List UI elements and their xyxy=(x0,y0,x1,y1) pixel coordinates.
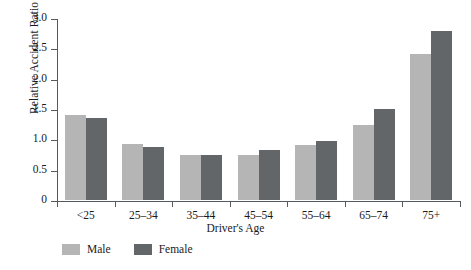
bar-female-2 xyxy=(201,155,222,201)
x-axis-tick-label: 75+ xyxy=(422,209,440,221)
relative-accident-ratio-bar-chart: Relative Accident Ratio 00.51.01.52.02.5… xyxy=(0,0,471,270)
x-axis-tick xyxy=(57,201,58,207)
y-axis-tick-label: 0 xyxy=(41,193,47,205)
bar-female-3 xyxy=(259,150,280,200)
legend-swatch-female xyxy=(134,244,152,255)
x-axis-tick xyxy=(460,201,461,207)
x-axis-tick xyxy=(402,201,403,207)
bar-female-0 xyxy=(86,118,107,201)
x-axis-tick xyxy=(172,201,173,207)
x-axis-line xyxy=(57,201,460,202)
bar-female-4 xyxy=(316,141,337,200)
x-axis-tick xyxy=(287,201,288,207)
legend-label-male: Male xyxy=(87,243,111,255)
plot-area: 00.51.01.52.02.53.0 <2525–3435–4445–5455… xyxy=(57,19,460,201)
x-axis-tick xyxy=(115,201,116,207)
y-axis-tick: 2.0 xyxy=(51,80,57,81)
x-axis-title: Driver's Age xyxy=(0,222,471,234)
legend-swatch-male xyxy=(62,244,80,255)
legend-item-female[interactable]: Female xyxy=(134,243,193,255)
legend-label-female: Female xyxy=(159,243,193,255)
x-axis-tick-label: <25 xyxy=(77,209,95,221)
y-axis-tick-label: 0.5 xyxy=(33,163,47,175)
y-axis-tick: 2.5 xyxy=(51,49,57,50)
y-axis-tick-label: 3.0 xyxy=(33,11,47,23)
bar-female-1 xyxy=(143,147,164,200)
y-axis-tick: 1.5 xyxy=(51,110,57,111)
y-axis-tick: 0.5 xyxy=(51,171,57,172)
bar-female-5 xyxy=(374,109,395,200)
chart-legend: MaleFemale xyxy=(62,243,207,255)
bar-male-5 xyxy=(353,125,374,200)
y-axis-tick-label: 1.5 xyxy=(33,102,47,114)
x-axis-tick-label: 25–34 xyxy=(129,209,158,221)
bar-male-0 xyxy=(65,115,86,200)
y-axis-tick-label: 1.0 xyxy=(33,132,47,144)
bar-male-1 xyxy=(122,144,143,200)
y-axis-tick-label: 2.0 xyxy=(33,72,47,84)
legend-item-male[interactable]: Male xyxy=(62,243,111,255)
bar-female-6 xyxy=(431,31,452,200)
y-axis-tick-label: 2.5 xyxy=(33,41,47,53)
x-axis-tick-label: 35–44 xyxy=(187,209,216,221)
bar-male-2 xyxy=(180,155,201,201)
y-axis-tick: 3.0 xyxy=(51,19,57,20)
bar-male-4 xyxy=(295,145,316,200)
bar-male-6 xyxy=(410,54,431,200)
y-axis-tick: 1.0 xyxy=(51,140,57,141)
x-axis-tick-label: 65–74 xyxy=(359,209,388,221)
x-axis-tick xyxy=(345,201,346,207)
y-axis-line xyxy=(57,19,58,202)
x-axis-tick-label: 45–54 xyxy=(244,209,273,221)
x-axis-tick xyxy=(230,201,231,207)
bar-male-3 xyxy=(238,155,259,201)
x-axis-tick-label: 55–64 xyxy=(302,209,331,221)
